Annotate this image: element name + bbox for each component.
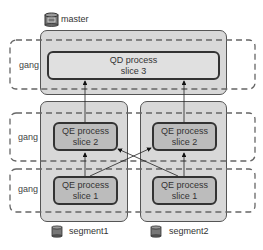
qd-process-line1: QD process <box>110 55 158 66</box>
qe-line1: QE process <box>161 180 208 191</box>
segment1-label: segment1 <box>69 226 109 236</box>
segment2-qe-slice2: QE process slice 2 <box>152 122 217 151</box>
segment2-qe-slice1: QE process slice 1 <box>152 176 217 205</box>
qe-line2: slice 1 <box>172 191 198 202</box>
qe-line2: slice 2 <box>172 137 198 148</box>
qd-process-line2: slice 3 <box>121 66 147 77</box>
segment2-label: segment2 <box>169 226 209 236</box>
segment1-database-icon <box>51 225 63 238</box>
gang-label-2: gang <box>18 132 38 142</box>
gang-label-1: gang <box>19 60 39 70</box>
gang-label-3: gang <box>18 184 38 194</box>
master-database-icon <box>44 12 59 27</box>
qe-line2: slice 1 <box>73 191 99 202</box>
master-label: master <box>61 14 89 24</box>
segment2-database-icon <box>150 225 162 238</box>
segment1-qe-slice2: QE process slice 2 <box>53 122 118 151</box>
qe-line1: QE process <box>161 126 208 137</box>
segment1-qe-slice1: QE process slice 1 <box>53 176 118 205</box>
qd-process-slice3: QD process slice 3 <box>47 51 220 80</box>
qe-line2: slice 2 <box>73 137 99 148</box>
qe-line1: QE process <box>62 180 109 191</box>
qe-line1: QE process <box>62 126 109 137</box>
